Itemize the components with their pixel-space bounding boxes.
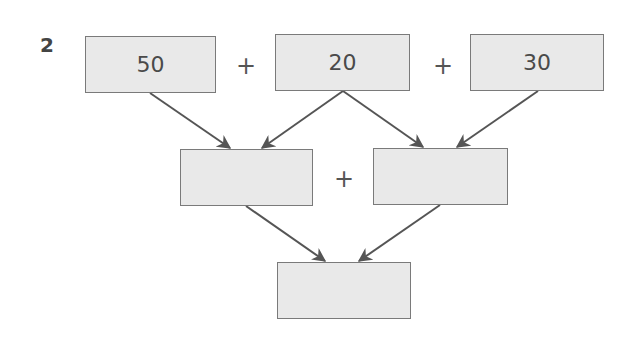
plus-operator-1: +: [236, 54, 256, 78]
plus-operator-2: +: [433, 54, 453, 78]
arrow-right-to-bottom: [359, 205, 440, 261]
arrow-20-to-left: [262, 91, 343, 148]
problem-number: 2: [40, 33, 54, 57]
middle-box-right[interactable]: [373, 148, 508, 205]
arrow-left-to-bottom: [246, 206, 325, 261]
top-box-2: 20: [275, 34, 410, 91]
arrow-20-to-right: [343, 91, 423, 147]
top-box-3: 30: [470, 34, 604, 91]
bottom-box-total[interactable]: [277, 262, 411, 319]
top-box-1: 50: [85, 36, 216, 93]
arrow-30-to-right: [457, 91, 538, 147]
middle-box-left[interactable]: [180, 149, 313, 206]
arrow-50-to-left: [150, 93, 230, 148]
plus-operator-middle: +: [334, 167, 354, 191]
